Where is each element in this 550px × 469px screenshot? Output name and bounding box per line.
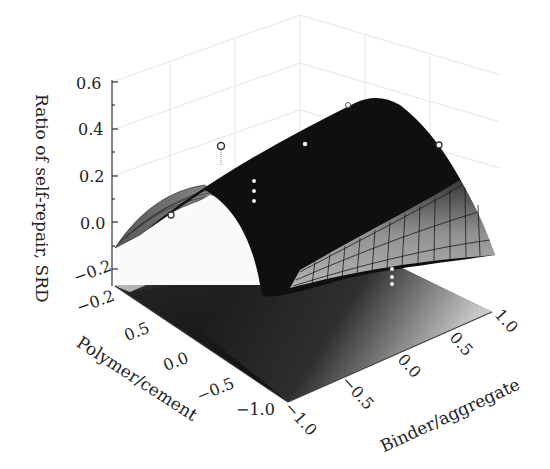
z-tick-0.4: 0.4 bbox=[78, 120, 103, 139]
z-tick-0.2: 0.2 bbox=[79, 167, 104, 186]
response-surface bbox=[115, 98, 495, 297]
x-tick-neg1.0: −1.0 bbox=[236, 400, 275, 419]
z-tick-0.0: 0.0 bbox=[80, 214, 105, 233]
z-tick-0.6: 0.6 bbox=[76, 74, 101, 93]
z-axis-label: Ratio of self-repair, SRD bbox=[32, 94, 52, 303]
